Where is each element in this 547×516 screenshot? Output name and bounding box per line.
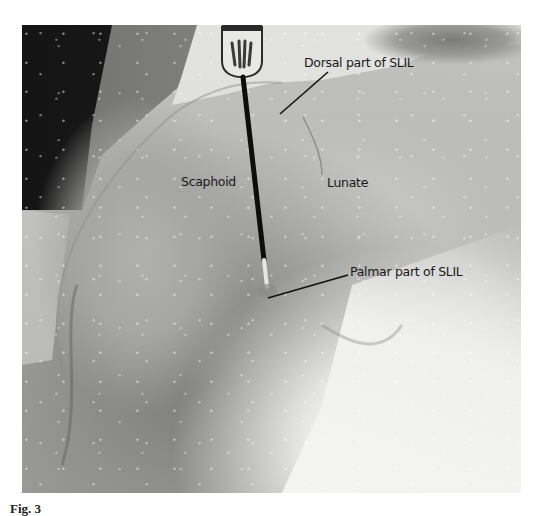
palmar-leader-line — [268, 275, 348, 298]
palmar-fold — [62, 285, 77, 465]
label-palmar-slil: Palmar part of SLIL — [350, 266, 463, 279]
figure-caption-cropped: Fig. 3 — [10, 502, 41, 515]
label-lunate: Lunate — [327, 177, 368, 190]
probe-shaft — [243, 77, 264, 260]
annotation-overlay — [22, 25, 521, 493]
ligament-fold — [322, 325, 402, 344]
figure-photo: Dorsal part of SLIL Scaphoid Lunate Palm… — [22, 25, 521, 493]
sl-joint-line — [303, 117, 322, 175]
probe-tip — [264, 260, 267, 287]
probe-handle-icon — [222, 25, 262, 77]
dorsal-leader-line — [280, 72, 328, 114]
label-dorsal-slil: Dorsal part of SLIL — [304, 57, 414, 70]
label-scaphoid: Scaphoid — [181, 176, 236, 189]
